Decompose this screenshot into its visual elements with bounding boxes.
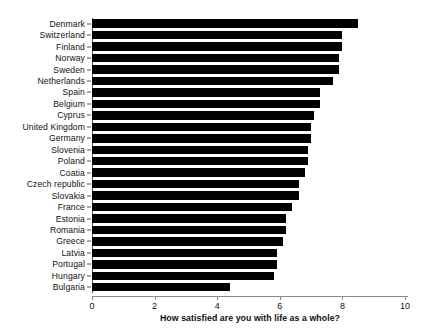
y-axis-tick: [87, 275, 91, 276]
x-axis-tick: [217, 296, 218, 300]
x-axis-tick-label: 2: [152, 302, 157, 311]
bar: [92, 100, 320, 108]
bar-row: Netherlands: [92, 75, 405, 86]
y-axis-tick: [87, 287, 91, 288]
bar: [92, 77, 333, 85]
category-label: Slovenia: [51, 145, 85, 154]
x-axis-tick-label: 4: [215, 302, 220, 311]
x-axis-tick: [155, 296, 156, 300]
bar: [92, 31, 342, 39]
bar-row: Switzerland: [92, 29, 405, 40]
x-axis-tick: [405, 296, 406, 300]
bar: [92, 157, 308, 165]
bar-row: Greece: [92, 236, 405, 247]
bar-row: Sweden: [92, 64, 405, 75]
bar: [92, 283, 230, 291]
bar: [92, 191, 299, 199]
y-axis-tick: [87, 218, 91, 219]
x-axis-line: [92, 296, 408, 297]
y-axis-tick: [87, 46, 91, 47]
category-label: Latvia: [61, 249, 85, 258]
y-axis-tick: [87, 126, 91, 127]
bar-row: Coatia: [92, 167, 405, 178]
y-axis-tick: [87, 241, 91, 242]
bar: [92, 226, 286, 234]
y-axis-tick: [87, 252, 91, 253]
x-axis-title: How satisfied are you with life as a who…: [92, 314, 408, 323]
category-label: Cyprus: [57, 111, 85, 120]
bar: [92, 203, 292, 211]
y-axis-tick: [87, 69, 91, 70]
category-label: Denmark: [49, 19, 85, 28]
bar-row: Slovakia: [92, 190, 405, 201]
category-label: United Kingdom: [22, 123, 85, 132]
y-axis-tick: [87, 149, 91, 150]
category-label: Netherlands: [38, 77, 85, 86]
bar: [92, 65, 339, 73]
bar-row: Spain: [92, 87, 405, 98]
x-axis-tick: [342, 296, 343, 300]
bar: [92, 260, 277, 268]
bar-row: France: [92, 201, 405, 212]
y-axis-tick: [87, 23, 91, 24]
bar-row: Denmark: [92, 18, 405, 29]
x-axis-tick-label: 0: [89, 302, 94, 311]
bar: [92, 214, 286, 222]
category-label: Slovakia: [52, 191, 85, 200]
x-axis-tick: [280, 296, 281, 300]
x-axis-tick-label: 6: [277, 302, 282, 311]
bar-row: United Kingdom: [92, 121, 405, 132]
bar: [92, 146, 308, 154]
bar: [92, 19, 358, 27]
bar-row: Cyprus: [92, 110, 405, 121]
bar-row: Belgium: [92, 98, 405, 109]
y-axis-tick: [87, 229, 91, 230]
bar: [92, 123, 311, 131]
bar-row: Latvia: [92, 247, 405, 258]
x-axis-tick: [92, 296, 93, 300]
bar-row: Finland: [92, 41, 405, 52]
bar: [92, 180, 299, 188]
category-label: Czech republic: [27, 180, 85, 189]
y-axis-tick: [87, 161, 91, 162]
bar-row: Czech republic: [92, 178, 405, 189]
y-axis-tick: [87, 264, 91, 265]
y-axis-tick: [87, 172, 91, 173]
category-label: France: [58, 203, 85, 212]
bar-row: Bulgaria: [92, 282, 405, 293]
category-label: Romania: [50, 226, 85, 235]
y-axis-tick: [87, 81, 91, 82]
bar: [92, 249, 277, 257]
bar: [92, 88, 320, 96]
bar-row: Estonia: [92, 213, 405, 224]
category-label: Hungary: [52, 272, 85, 281]
bar: [92, 237, 283, 245]
bar-row: Poland: [92, 156, 405, 167]
bar: [92, 54, 339, 62]
bar-row: Romania: [92, 224, 405, 235]
y-axis-tick: [87, 35, 91, 36]
category-label: Germany: [49, 134, 85, 143]
y-axis-tick: [87, 207, 91, 208]
y-axis-tick: [87, 92, 91, 93]
category-label: Bulgaria: [53, 283, 85, 292]
bar: [92, 134, 311, 142]
bar-row: Hungary: [92, 270, 405, 281]
bar-row: Norway: [92, 52, 405, 63]
plot-area: DenmarkSwitzerlandFinlandNorwaySwedenNet…: [92, 18, 405, 293]
category-label: Estonia: [56, 214, 85, 223]
bar: [92, 42, 342, 50]
category-label: Belgium: [53, 100, 85, 109]
y-axis-tick: [87, 195, 91, 196]
bar: [92, 111, 314, 119]
category-label: Norway: [55, 54, 85, 63]
category-label: Poland: [58, 157, 85, 166]
category-label: Sweden: [53, 65, 85, 74]
bar: [92, 272, 274, 280]
category-label: Spain: [63, 88, 85, 97]
bar-row: Germany: [92, 133, 405, 144]
bar-chart-figure: DenmarkSwitzerlandFinlandNorwaySwedenNet…: [0, 0, 438, 333]
y-axis-tick: [87, 115, 91, 116]
y-axis-tick: [87, 58, 91, 59]
y-axis-tick: [87, 103, 91, 104]
